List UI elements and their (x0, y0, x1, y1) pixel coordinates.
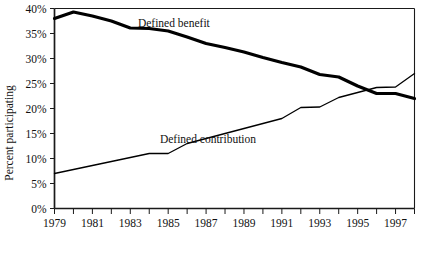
x-tick-label: 1983 (119, 217, 142, 229)
line-chart: 0%5%10%15%20%25%30%35%40% 19791981198319… (0, 0, 430, 253)
chart-container: 0%5%10%15%20%25%30%35%40% 19791981198319… (0, 0, 430, 253)
x-tick-label: 1987 (195, 217, 218, 229)
y-axis-title: Percent participating (3, 85, 16, 181)
series-label-defined-benefit: Defined benefit (138, 17, 211, 29)
x-tick-label: 1993 (308, 217, 331, 229)
y-tick-label: 0% (31, 203, 47, 215)
x-tick-label: 1979 (43, 217, 66, 229)
x-tick-label: 1997 (384, 217, 407, 229)
x-tick-label: 1991 (270, 217, 293, 229)
y-tick-label: 25% (25, 78, 47, 90)
x-tick-label: 1981 (81, 217, 104, 229)
series-label-defined-contribution: Defined contribution (160, 133, 256, 145)
y-tick-label: 30% (25, 53, 47, 65)
chart-background (0, 0, 430, 253)
x-tick-label: 1985 (157, 217, 180, 229)
y-tick-label: 35% (25, 28, 47, 40)
x-tick-label: 1995 (346, 217, 369, 229)
y-tick-label: 20% (25, 103, 47, 115)
y-tick-label: 15% (25, 128, 47, 140)
y-tick-label: 10% (25, 153, 47, 165)
x-tick-label: 1989 (232, 217, 255, 229)
y-tick-label: 5% (31, 178, 47, 190)
y-tick-label: 40% (25, 3, 47, 15)
